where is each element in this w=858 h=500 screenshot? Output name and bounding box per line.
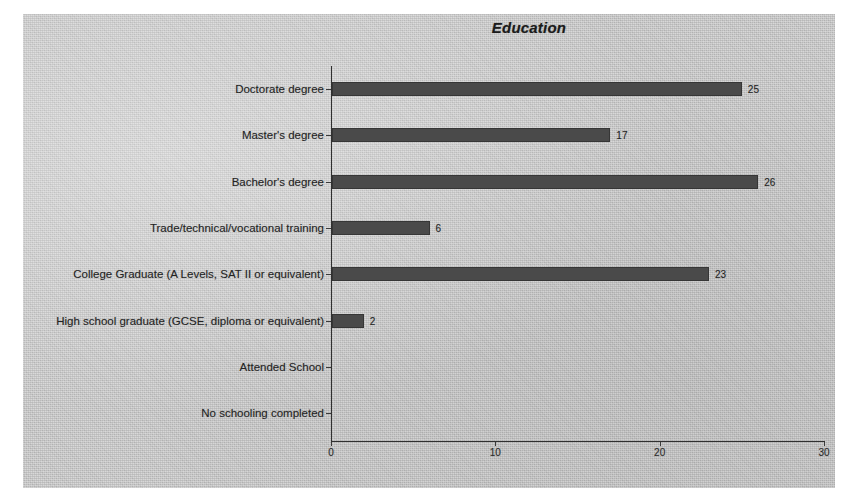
x-axis-tick — [331, 442, 332, 446]
y-axis-tick — [326, 367, 331, 368]
bar — [332, 314, 364, 328]
y-axis-tick — [326, 321, 331, 322]
x-axis-tick-label: 30 — [818, 447, 829, 458]
chart-title: Education — [0, 19, 858, 36]
category-label: Attended School — [240, 361, 324, 373]
category-label: College Graduate (A Levels, SAT II or eq… — [73, 268, 324, 280]
y-axis-tick — [326, 274, 331, 275]
category-label: Bachelor's degree — [232, 176, 324, 188]
x-axis-tick — [495, 442, 496, 446]
bar-value-label: 25 — [748, 84, 759, 95]
category-label: Trade/technical/vocational training — [150, 222, 324, 234]
y-axis-tick — [326, 413, 331, 414]
bar — [332, 175, 758, 189]
chart-plot-layer: Education 0102030 Doctorate degreeMaster… — [0, 0, 858, 500]
category-label: Doctorate degree — [235, 83, 324, 95]
bar-value-label: 17 — [616, 130, 627, 141]
x-axis-line — [331, 441, 825, 442]
x-axis-tick-label: 20 — [654, 447, 665, 458]
bar-value-label: 23 — [715, 269, 726, 280]
x-axis-tick — [824, 442, 825, 446]
x-axis-tick-label: 0 — [328, 447, 334, 458]
y-axis-tick — [326, 182, 331, 183]
bar — [332, 128, 610, 142]
bar-value-label: 6 — [436, 222, 442, 233]
bar-value-label: 2 — [370, 315, 376, 326]
y-axis-tick — [326, 89, 331, 90]
x-axis-tick — [660, 442, 661, 446]
chart-figure: Education 0102030 Doctorate degreeMaster… — [0, 0, 858, 500]
y-axis-tick — [326, 135, 331, 136]
y-axis-line — [331, 66, 332, 441]
bar-value-label: 26 — [764, 176, 775, 187]
category-label: Master's degree — [242, 129, 324, 141]
x-axis-tick-label: 10 — [490, 447, 501, 458]
bar — [332, 221, 430, 235]
y-axis-tick — [326, 228, 331, 229]
bar — [332, 267, 709, 281]
bar — [332, 82, 742, 96]
category-label: High school graduate (GCSE, diploma or e… — [56, 315, 324, 327]
category-label: No schooling completed — [201, 407, 324, 419]
